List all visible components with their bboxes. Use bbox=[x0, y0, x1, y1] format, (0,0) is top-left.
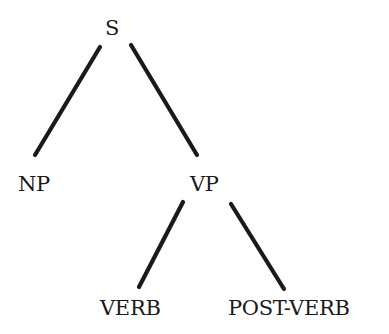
edge-s-vp bbox=[131, 45, 197, 155]
edge-vp-postverb bbox=[231, 204, 284, 289]
node-s: S bbox=[105, 18, 119, 39]
edge-vp-verb bbox=[139, 202, 183, 287]
node-vp: VP bbox=[190, 174, 219, 195]
tree-edges bbox=[0, 0, 389, 334]
syntax-tree-diagram: S NP VP VERB POST-VERB bbox=[0, 0, 389, 334]
node-np: NP bbox=[18, 174, 50, 195]
node-verb: VERB bbox=[100, 298, 161, 319]
edge-s-np bbox=[35, 47, 100, 155]
node-post-verb: POST-VERB bbox=[228, 298, 350, 319]
